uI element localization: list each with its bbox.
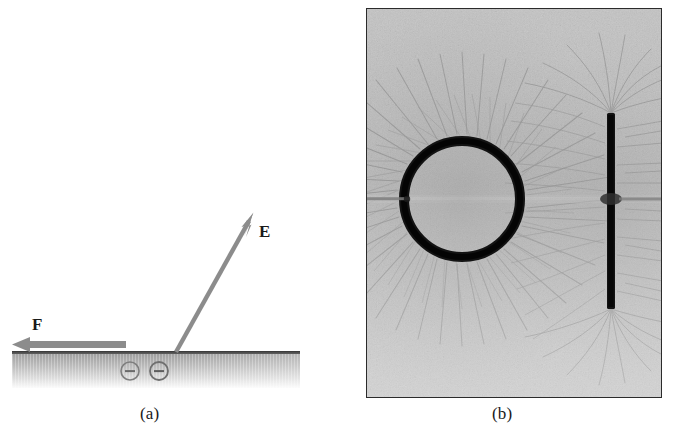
physics-figure: E F (a) (0, 0, 674, 436)
caption-a: (a) (140, 404, 159, 424)
panel-b-photograph (366, 8, 662, 398)
force-arrow (12, 337, 126, 352)
electric-field-arrow (176, 213, 254, 353)
conductor-slab (12, 351, 300, 388)
panel-b-field-photo (367, 9, 661, 397)
force-label-F: F (32, 315, 42, 334)
caption-b: (b) (492, 404, 512, 424)
field-label-E: E (259, 222, 270, 241)
panel-a-schematic: E F (0, 0, 340, 436)
panel-a-drawing: E F (0, 0, 340, 400)
